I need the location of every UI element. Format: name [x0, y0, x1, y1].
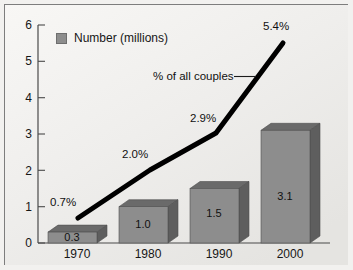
bar-value-label-2000: 3.1: [255, 190, 315, 202]
x-tick-label-1970: 1970: [47, 247, 107, 261]
y-tick-label-2: 2: [16, 164, 32, 178]
legend-swatch-number: [56, 33, 67, 44]
y-tick-label-5: 5: [16, 54, 32, 68]
bar-2000: [261, 123, 320, 243]
bar-value-label-1980: 1.0: [113, 218, 173, 230]
x-tick-label-2000: 2000: [260, 247, 320, 261]
pct-label-1990: 2.9%: [190, 112, 216, 124]
bar-value-label-1990: 1.5: [184, 207, 244, 219]
pct-label-1970: 0.7%: [50, 196, 76, 208]
y-tick-label-0: 0: [16, 236, 32, 250]
bar-value-label-1970: 0.3: [42, 231, 102, 243]
x-tick-label-1980: 1980: [118, 247, 178, 261]
line-series-annotation: % of all couples: [153, 70, 234, 82]
y-tick-label-1: 1: [16, 200, 32, 214]
legend-label-number: Number (millions): [74, 31, 168, 45]
pct-label-2000: 5.4%: [263, 20, 289, 32]
y-tick-label-4: 4: [16, 91, 32, 105]
y-tick-label-3: 3: [16, 127, 32, 141]
chart-canvas: [0, 0, 353, 270]
y-tick-label-6: 6: [16, 18, 32, 32]
x-tick-label-1990: 1990: [189, 247, 249, 261]
pct-label-1980: 2.0%: [122, 148, 148, 160]
chart-figure: 6 5 4 3 2 1 0 1970 1980 1990 2000 0.3 1.…: [0, 0, 353, 270]
